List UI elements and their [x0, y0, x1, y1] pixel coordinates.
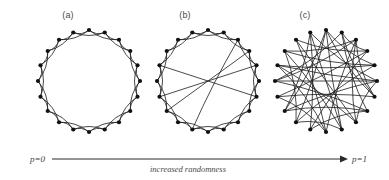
small-world-network-figure: (a) (b) (c) p=0 p=1 increased randomness — [0, 0, 389, 180]
increased-randomness-label: increased randomness — [150, 164, 226, 174]
p-equals-zero-label: p=0 — [30, 154, 45, 164]
arrow-head-icon — [340, 156, 348, 163]
randomness-arrow — [0, 0, 389, 180]
p-equals-one-label: p=1 — [352, 154, 367, 164]
